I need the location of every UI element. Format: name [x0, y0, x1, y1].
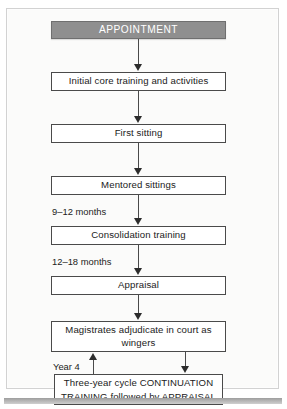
- flowchart-canvas: APPOINTMENT Initial core training and ac…: [7, 9, 280, 390]
- edge-label-twelve-eighteen-months: 12–18 months: [52, 256, 111, 267]
- edge-label-year-four: Year 4: [53, 361, 80, 372]
- node-appraisal-label: Appraisal: [56, 279, 221, 291]
- node-mentored-sittings-label: Mentored sittings: [56, 179, 221, 191]
- node-first-sitting-label: First sitting: [56, 127, 221, 139]
- connector-first-sitting-to-mentored: [138, 143, 139, 171]
- node-magistrates-adjudicate: Magistrates adjudicate in court as winge…: [51, 321, 226, 352]
- arrowhead-down-icon: [134, 268, 142, 275]
- node-initial-core-training-label: Initial core training and activities: [56, 75, 221, 87]
- node-magistrates-adjudicate-label: Magistrates adjudicate in court as winge…: [56, 324, 221, 349]
- node-appointment: APPOINTMENT: [51, 21, 226, 39]
- edge-label-nine-twelve-months: 9–12 months: [52, 206, 106, 217]
- arrowhead-up-icon: [89, 353, 97, 360]
- node-mentored-sittings: Mentored sittings: [51, 176, 226, 195]
- arrowhead-down-icon: [181, 366, 189, 373]
- arrowhead-down-icon: [134, 64, 142, 71]
- arrowhead-down-icon: [134, 218, 142, 225]
- connector-initial-core-to-first-sitting: [138, 91, 139, 119]
- figure-root: APPOINTMENT Initial core training and ac…: [0, 0, 287, 409]
- arrowhead-down-icon: [134, 116, 142, 123]
- node-appraisal: Appraisal: [51, 276, 226, 295]
- bottom-divider-rule: [4, 398, 282, 404]
- node-first-sitting: First sitting: [51, 124, 226, 143]
- node-consolidation-training: Consolidation training: [51, 226, 226, 245]
- arrowhead-down-icon: [134, 168, 142, 175]
- node-appointment-label: APPOINTMENT: [56, 24, 221, 36]
- connector-appointment-to-initial-core: [138, 39, 139, 66]
- node-consolidation-training-label: Consolidation training: [56, 229, 221, 241]
- node-initial-core-training: Initial core training and activities: [51, 72, 226, 91]
- figure-frame: APPOINTMENT Initial core training and ac…: [6, 8, 279, 389]
- arrowhead-down-icon: [134, 313, 142, 320]
